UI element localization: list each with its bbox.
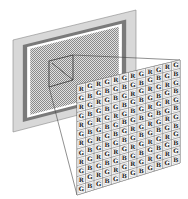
filter-letter: G [104,132,109,139]
filter-letter: B [139,96,144,103]
filter-letter: G [147,94,152,101]
filter-letter: G [113,121,118,128]
filter-letter: G [165,72,170,79]
filter-letter: G [122,74,127,81]
filter-letter: B [105,177,110,184]
filter-letter: B [113,130,118,137]
filter-letter: G [139,158,144,165]
filter-letter: B [122,101,127,108]
filter-letter: B [156,109,161,116]
filter-letter: G [139,87,144,94]
filter-letter: B [156,126,161,133]
filter-letter: G [96,107,101,114]
filter-letter: B [87,182,92,189]
filter-letter: G [130,81,135,88]
filter-letter: B [122,83,127,90]
filter-letter: B [139,114,144,121]
filter-letter: G [104,114,109,121]
filter-letter: G [165,159,170,166]
filter-letter: G [113,103,118,110]
filter-letter: G [130,116,135,123]
filter-letter: G [156,100,161,107]
filter-letter: G [113,85,118,92]
filter-letter: B [139,149,144,156]
filter-letter: G [139,140,144,147]
filter-letter: B [105,105,110,112]
filter-letter: B [105,87,110,94]
filter-letter: G [147,129,152,136]
filter-letter: G [96,162,101,169]
filter-letter: B [105,159,110,166]
filter-letter: G [122,110,127,117]
filter-letter: B [173,139,178,146]
filter-letter: G [156,135,161,142]
filter-letter: G [147,164,152,171]
filter-letter: B [87,164,92,171]
filter-letter: G [96,126,101,133]
filter-letter: G [130,134,135,141]
filter-letter: G [122,163,127,170]
filter-letter: G [156,66,161,73]
filter-letter: G [130,169,135,176]
filter-letter: G [122,145,127,152]
filter-letter: B [87,110,92,117]
filter-letter: G [130,152,135,159]
filter-letter: B [130,107,135,114]
filter-letter: B [173,87,178,94]
filter-letter: B [156,161,161,168]
filter-letter: B [87,146,92,153]
filter-letter: G [156,118,161,125]
filter-letter: G [113,139,118,146]
filter-letter: G [104,150,109,157]
filter-letter: G [79,149,84,156]
filter-letter: B [139,131,144,138]
filter-letter: B [156,74,161,81]
filter-letter: B [105,123,110,130]
filter-letter: G [173,96,178,103]
filter-letter: B [173,122,178,129]
filter-letter: B [122,154,127,161]
sensor-diagram: RGRGRGRGRGRGGBGBGBGBGBGBRGRGBGRGRGRGGBGB… [0,0,188,199]
filter-letter: G [87,137,92,144]
filter-letter: G [104,96,109,103]
filter-letter: G [139,105,144,112]
filter-letter: B [173,70,178,77]
filter-letter: G [165,89,170,96]
filter-letter: G [104,78,109,85]
filter-letter: B [113,94,118,101]
filter-letter: G [87,119,92,126]
filter-letter: B [122,118,127,125]
filter-letter: G [113,175,118,182]
filter-letter: G [147,76,152,83]
filter-letter: G [156,83,161,90]
filter-letter: G [173,79,178,86]
filter-letter: G [165,107,170,114]
filter-letter: G [87,173,92,180]
filter-letter: G [122,127,127,134]
filter-letter: G [122,92,127,99]
filter-letter: G [165,124,170,131]
filter-letter: G [113,157,118,164]
filter-letter: B [122,136,127,143]
filter-letter: B [156,144,161,151]
filter-letter: B [139,79,144,86]
filter-letter: G [173,113,178,120]
filter-letter: G [156,153,161,160]
filter-letter: G [173,147,178,154]
filter-letter: G [79,94,84,101]
filter-letter: G [96,89,101,96]
filter-letter: B [173,104,178,111]
filter-letter: B [105,141,110,148]
filter-letter: B [173,156,178,163]
filter-letter: G [96,180,101,187]
filter-letter: B [87,92,92,99]
filter-letter: G [130,98,135,105]
filter-letter: G [147,146,152,153]
filter-letter: G [173,130,178,137]
filter-letter: B [139,167,144,174]
filter-letter: G [139,70,144,77]
filter-letter: B [156,92,161,99]
filter-letter: G [87,155,92,162]
filter-letter: G [87,82,92,89]
filter-letter: G [79,112,84,119]
